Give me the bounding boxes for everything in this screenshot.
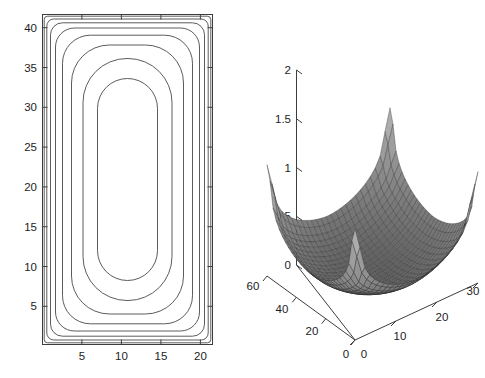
surface-mesh-cell (465, 195, 473, 225)
contour-y-tick-label: 25 (24, 141, 37, 153)
contour-x-tick-label: 10 (115, 350, 128, 362)
contour-x-tick-label: 15 (155, 350, 168, 362)
surface-x-tick-labels: 0 10 20 30 (361, 285, 480, 360)
surface-x-tick-label: 30 (467, 285, 480, 297)
surface-y-tick-label: 0 (343, 348, 349, 360)
surface-plot-panel: 2 1.5 1 0.5 0 0 20 40 60 (240, 0, 485, 378)
contour-line (47, 19, 208, 340)
contour-y-tick-label: 40 (24, 22, 37, 34)
surface-y-tick-labels: 0 20 40 60 (247, 280, 350, 360)
figure-canvas: 5 10 15 20 25 30 35 40 5 10 15 20 (0, 0, 485, 378)
contour-plot-panel: 5 10 15 20 25 30 35 40 5 10 15 20 (0, 0, 240, 378)
contour-line (83, 59, 172, 301)
contour-plot-svg: 5 10 15 20 25 30 35 40 5 10 15 20 (0, 0, 240, 378)
surface-mesh-cell (470, 172, 478, 204)
surface-x-tick-label: 0 (361, 348, 367, 360)
surface-x-tick-label: 20 (436, 311, 449, 323)
surface-y-tick-label: 40 (276, 303, 289, 315)
contour-y-tick-label: 30 (24, 101, 37, 113)
surface-z-tick-label: 1 (285, 162, 291, 174)
contour-line (44, 16, 211, 343)
contour-axes-box (43, 15, 213, 345)
surface-z-tick-label: 1.5 (275, 113, 291, 125)
contour-y-ticks (43, 28, 213, 307)
contour-line (56, 28, 200, 331)
surface-z-tick-label: 0 (285, 259, 291, 271)
contour-x-tick-label: 5 (79, 350, 85, 362)
contour-lines-group (44, 16, 211, 343)
contour-x-tick-label: 20 (194, 350, 207, 362)
surface-y-tick-label: 20 (306, 325, 319, 337)
contour-line (98, 79, 158, 281)
contour-y-tick-labels: 5 10 15 20 25 30 35 40 (24, 22, 37, 313)
surface-z-tick-label: 2 (285, 64, 291, 76)
contour-y-tick-label: 35 (24, 62, 37, 74)
surface-y-tick-label: 60 (247, 280, 260, 292)
contour-x-ticks (82, 15, 200, 345)
contour-line (72, 45, 184, 314)
contour-x-tick-labels: 5 10 15 20 (79, 350, 207, 362)
surface-plot-svg: 2 1.5 1 0.5 0 0 20 40 60 (240, 0, 485, 378)
contour-y-tick-label: 10 (24, 261, 37, 273)
surface-x-tick-label: 10 (394, 330, 407, 342)
contour-y-tick-label: 15 (24, 221, 37, 233)
contour-y-tick-label: 20 (24, 181, 37, 193)
contour-y-tick-label: 5 (31, 300, 37, 312)
